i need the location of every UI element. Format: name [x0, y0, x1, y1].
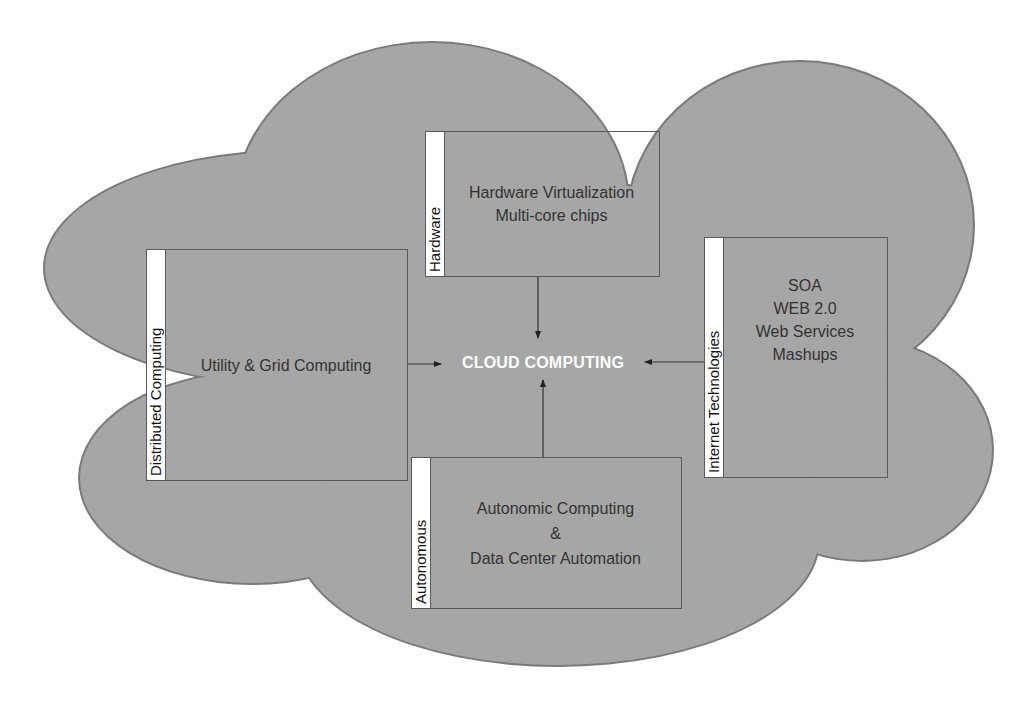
internet-category-label: Internet Technologies — [705, 331, 723, 473]
hardware-category-strip: Hardware — [426, 132, 445, 276]
autonomous-category-label: Autonomous — [412, 520, 430, 604]
autonomous-line-3: Data Center Automation — [470, 546, 641, 571]
hardware-box: Hardware Hardware Virtualization Multi-c… — [425, 131, 660, 277]
distributed-category-label: Distributed Computing — [147, 328, 165, 476]
hardware-line-1: Hardware Virtualization — [469, 181, 634, 204]
autonomous-category-strip: Autonomous — [412, 458, 431, 608]
internet-line-4: Mashups — [773, 343, 838, 366]
distributed-category-strip: Distributed Computing — [147, 250, 166, 480]
internet-line-2: WEB 2.0 — [773, 297, 836, 320]
autonomous-box-content: Autonomic Computing & Data Center Automa… — [430, 458, 681, 608]
distributed-box-content: Utility & Grid Computing — [165, 250, 407, 480]
autonomous-box: Autonomous Autonomic Computing & Data Ce… — [411, 457, 682, 609]
distributed-line-1: Utility & Grid Computing — [201, 354, 372, 377]
autonomous-line-1: Autonomic Computing — [477, 496, 634, 521]
internet-category-strip: Internet Technologies — [705, 238, 724, 477]
internet-technologies-box: Internet Technologies SOA WEB 2.0 Web Se… — [704, 237, 888, 478]
internet-line-1: SOA — [788, 274, 822, 297]
hardware-line-2: Multi-core chips — [495, 204, 607, 227]
internet-box-content: SOA WEB 2.0 Web Services Mashups — [723, 238, 887, 477]
distributed-computing-box: Distributed Computing Utility & Grid Com… — [146, 249, 408, 481]
hardware-category-label: Hardware — [426, 207, 444, 272]
cloud-computing-center-label: CLOUD COMPUTING — [443, 354, 643, 372]
autonomous-line-2: & — [550, 521, 561, 546]
internet-line-3: Web Services — [756, 320, 854, 343]
hardware-box-content: Hardware Virtualization Multi-core chips — [444, 132, 659, 276]
